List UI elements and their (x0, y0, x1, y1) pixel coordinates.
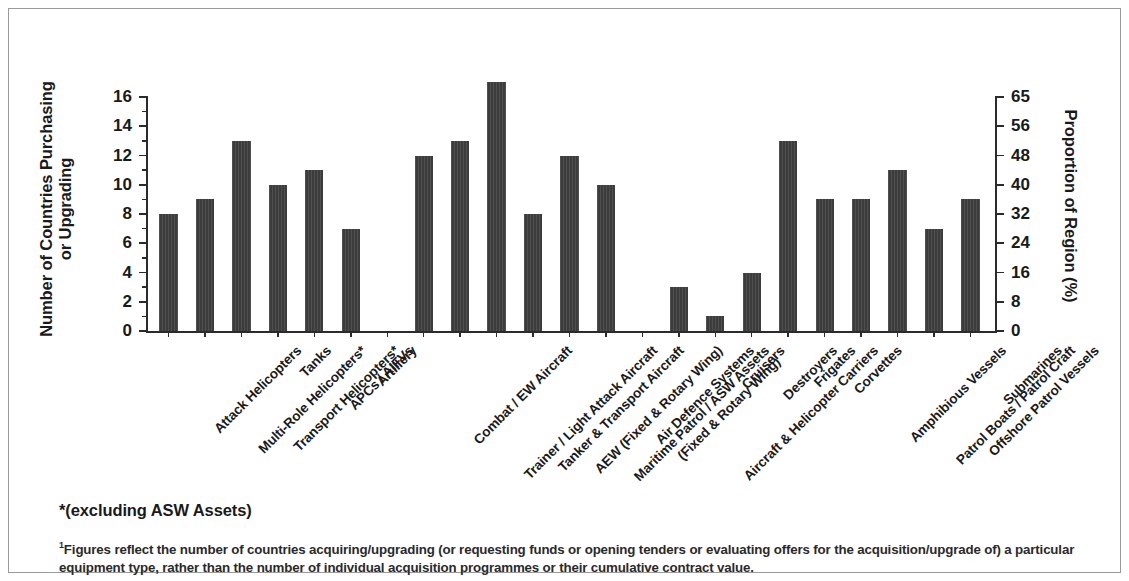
y-tick-right (997, 330, 1004, 332)
bar (888, 170, 906, 331)
y-minor-tick-left (142, 140, 147, 142)
x-tick (605, 332, 606, 337)
bar (670, 287, 688, 331)
y-tick-label-left: 14 (98, 117, 132, 134)
plot-area: 02468101214160816243240485665 (146, 97, 997, 331)
bar (816, 199, 834, 331)
y-tick-right (997, 96, 1004, 98)
bar (232, 141, 250, 331)
y-tick-label-right: 65 (1011, 88, 1045, 105)
y-tick-right (997, 242, 1004, 244)
y-minor-tick-left (142, 228, 147, 230)
x-tick (642, 332, 643, 337)
y-tick-left (139, 272, 146, 274)
y-tick-label-right: 16 (1011, 264, 1045, 281)
y-tick-label-left: 16 (98, 88, 132, 105)
x-tick (387, 332, 388, 337)
x-tick (496, 332, 497, 337)
x-tick (715, 332, 716, 337)
x-tick (241, 332, 242, 337)
y-tick-left (139, 96, 146, 98)
y-minor-tick-left (142, 257, 147, 259)
y-axis-left-title: Number of Countries Purchasing or Upgrad… (37, 79, 73, 339)
bar (852, 199, 870, 331)
y-tick-left (139, 125, 146, 127)
bar (743, 273, 761, 332)
x-tick (860, 332, 861, 337)
x-tick (897, 332, 898, 337)
x-axis-line (146, 331, 997, 333)
x-tick (459, 332, 460, 337)
y-tick-left (139, 155, 146, 157)
y-tick-label-left: 12 (98, 147, 132, 164)
bar (159, 214, 177, 331)
bar (451, 141, 469, 331)
bar (779, 141, 797, 331)
y-tick-right (997, 155, 1004, 157)
bar (597, 185, 615, 331)
x-tick (751, 332, 752, 337)
bar (487, 82, 505, 331)
bar (342, 229, 360, 331)
bar (196, 199, 214, 331)
y-tick-right (997, 184, 1004, 186)
y-tick-label-left: 4 (98, 264, 132, 281)
bar (925, 229, 943, 331)
y-minor-tick-left (142, 286, 147, 288)
x-axis-labels: Attack HelicoptersMulti-Role Helicopters… (146, 339, 1006, 509)
asterisk-note: *(excluding ASW Assets) (59, 501, 252, 520)
y-axis-left-line (146, 96, 148, 332)
x-tick (204, 332, 205, 337)
x-tick (423, 332, 424, 337)
y-tick-label-right: 56 (1011, 117, 1045, 134)
bar (305, 170, 323, 331)
x-tick (970, 332, 971, 337)
y-tick-right (997, 301, 1004, 303)
chart-page: Number of Countries Purchasing or Upgrad… (0, 0, 1129, 581)
y-tick-left (139, 330, 146, 332)
y-minor-tick-left (142, 111, 147, 113)
y-tick-label-left: 10 (98, 176, 132, 193)
y-tick-label-left: 8 (98, 205, 132, 222)
x-tick (168, 332, 169, 337)
x-tick (569, 332, 570, 337)
y-axis-right-title: Proportion of Region (%) (1059, 75, 1081, 337)
y-tick-left (139, 213, 146, 215)
y-tick-label-right: 32 (1011, 205, 1045, 222)
y-tick-label-left: 2 (98, 293, 132, 310)
x-tick (787, 332, 788, 337)
bar (706, 316, 724, 331)
y-tick-label-right: 40 (1011, 176, 1045, 193)
x-tick (933, 332, 934, 337)
x-axis-label: Patrol Boats / Patrol Craft (953, 343, 1078, 468)
bar (560, 156, 578, 332)
x-tick (678, 332, 679, 337)
y-tick-left (139, 242, 146, 244)
y-minor-tick-left (142, 199, 147, 201)
y-tick-right (997, 125, 1004, 127)
y-tick-label-left: 0 (98, 322, 132, 339)
footnote: 1Figures reflect the number of countries… (59, 537, 1099, 576)
bar (415, 156, 433, 332)
y-tick-left (139, 301, 146, 303)
y-tick-label-right: 0 (1011, 322, 1045, 339)
chart-frame: Number of Countries Purchasing or Upgrad… (8, 8, 1121, 573)
x-tick (314, 332, 315, 337)
y-tick-right (997, 213, 1004, 215)
footnote-text: Figures reflect the number of countries … (59, 542, 1074, 575)
bar (524, 214, 542, 331)
y-tick-right (997, 272, 1004, 274)
x-tick (350, 332, 351, 337)
bar (269, 185, 287, 331)
y-tick-label-left: 6 (98, 234, 132, 251)
x-tick (277, 332, 278, 337)
x-tick (532, 332, 533, 337)
y-tick-label-right: 24 (1011, 234, 1045, 251)
y-tick-label-right: 8 (1011, 293, 1045, 310)
y-minor-tick-left (142, 169, 147, 171)
y-minor-tick-left (142, 316, 147, 318)
x-tick (824, 332, 825, 337)
y-tick-label-right: 48 (1011, 147, 1045, 164)
bar (961, 199, 979, 331)
y-tick-left (139, 184, 146, 186)
